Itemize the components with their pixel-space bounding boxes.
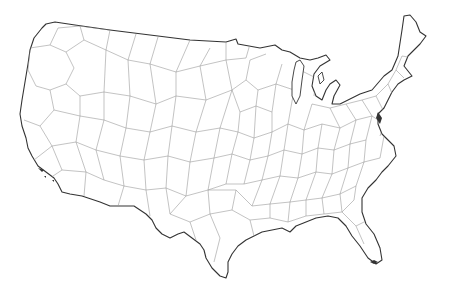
us-voronoi-map [0, 0, 453, 281]
us-landmass [20, 15, 426, 278]
lake-huron-bay [318, 72, 324, 84]
map-canvas [20, 15, 426, 278]
